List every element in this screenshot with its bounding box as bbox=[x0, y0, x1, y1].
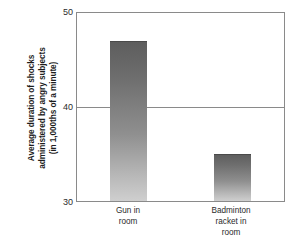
y-axis-title-line-1: Average duration of shocks bbox=[26, 47, 37, 169]
bar-chart: Average duration of shocks administered … bbox=[0, 0, 297, 249]
x-tick-badminton-line-1: Badminton bbox=[181, 205, 281, 216]
plot-area bbox=[76, 12, 285, 202]
y-tick-30: 30 bbox=[51, 198, 73, 207]
x-axis-tick-labels: Gun in room Badminton racket in room bbox=[76, 205, 285, 249]
y-axis-tick-labels: 50 40 30 bbox=[48, 12, 73, 202]
gridline-40 bbox=[77, 107, 284, 108]
x-tick-badminton-line-2: racket in bbox=[181, 216, 281, 227]
bar-badminton-racket-in-room bbox=[214, 154, 251, 201]
y-tick-50: 50 bbox=[51, 8, 73, 17]
x-tick-badminton-racket-in-room: Badminton racket in room bbox=[181, 205, 281, 238]
x-tick-badminton-line-3: room bbox=[181, 227, 281, 238]
x-tick-gun-in-room: Gun in room bbox=[78, 205, 178, 227]
x-tick-gun-line-1: Gun in bbox=[78, 205, 178, 216]
x-tick-gun-line-2: room bbox=[78, 216, 178, 227]
bar-gun-in-room bbox=[110, 41, 147, 201]
y-axis-title-line-2: administered by angry subjects bbox=[37, 47, 48, 169]
y-tick-40: 40 bbox=[51, 103, 73, 112]
